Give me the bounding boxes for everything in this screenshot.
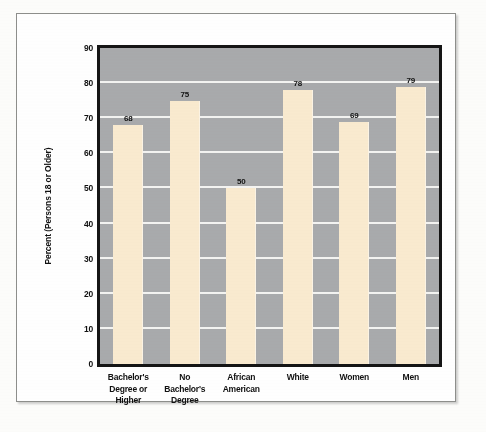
bar <box>170 101 200 364</box>
bar-value-label: 68 <box>108 114 148 123</box>
bar <box>339 122 369 364</box>
y-axis-title: Percent (Persons 18 or Older) <box>41 45 55 367</box>
bar-value-label: 78 <box>278 79 318 88</box>
y-tick-label: 70 <box>71 113 93 123</box>
y-tick-label: 20 <box>71 289 93 299</box>
y-tick-label: 90 <box>71 43 93 53</box>
bar <box>113 125 143 364</box>
plot-inner: 687550786979 <box>100 48 439 364</box>
bar-value-label: 75 <box>165 90 205 99</box>
gridline <box>100 151 439 153</box>
bar-value-label: 50 <box>221 177 261 186</box>
bar-value-label: 79 <box>391 76 431 85</box>
gridline <box>100 116 439 118</box>
y-tick-label: 50 <box>71 183 93 193</box>
y-tick-label: 60 <box>71 148 93 158</box>
page-frame: Percent (Persons 18 or Older) 0102030405… <box>16 13 456 402</box>
bar <box>283 90 313 364</box>
gridline <box>100 222 439 224</box>
y-axis-title-text: Percent (Persons 18 or Older) <box>43 147 53 264</box>
bar-value-label: 69 <box>334 111 374 120</box>
x-tick-label-line: American <box>205 384 277 396</box>
y-tick-label: 0 <box>71 359 93 369</box>
gridline <box>100 327 439 329</box>
plot-area: 687550786979 <box>97 45 442 367</box>
x-tick-label-line: Degree <box>149 395 221 407</box>
x-tick-label: Men <box>375 372 447 384</box>
x-tick-label-line: Men <box>375 372 447 384</box>
gridline <box>100 186 439 188</box>
gridline <box>100 292 439 294</box>
gridline <box>100 257 439 259</box>
chart-page: Percent (Persons 18 or Older) 0102030405… <box>0 0 486 432</box>
y-tick-label: 30 <box>71 254 93 264</box>
bar <box>396 87 426 364</box>
x-axis-labels: Bachelor'sDegree orHigherNoBachelor'sDeg… <box>97 372 442 414</box>
y-tick-label: 40 <box>71 219 93 229</box>
y-tick-label: 80 <box>71 78 93 88</box>
y-axis-ticks: 0102030405060708090 <box>67 45 93 367</box>
y-tick-label: 10 <box>71 324 93 334</box>
bar <box>226 188 256 364</box>
gridline <box>100 81 439 83</box>
